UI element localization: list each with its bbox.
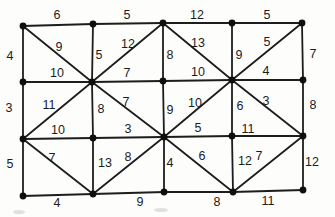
edge-weight-r4c3-r4c4: 8 <box>214 195 221 209</box>
edge-weight-r2c4-r3c3: 10 <box>188 96 202 110</box>
graph-node-r2c3 <box>160 78 167 85</box>
edge-r2c2-r2c3 <box>92 81 163 82</box>
edge-weight-r3c1-r4c1: 5 <box>7 157 14 171</box>
edge-weight-r2c2-r3c2: 8 <box>98 102 105 116</box>
edge-r1c2-r2c2 <box>92 24 93 82</box>
edge-weight-r2c3-r2c4: 10 <box>191 65 205 79</box>
edge-weight-r4c2-r3c3: 8 <box>125 150 132 164</box>
edge-r3c1-r4c2 <box>23 139 93 194</box>
edge-weight-r2c2-r3c3: 7 <box>123 95 130 109</box>
edge-r1c5-r2c5 <box>302 23 303 80</box>
edge-r2c2-r3c2 <box>92 82 93 138</box>
edge-weight-r2c1-r2c2: 10 <box>50 66 64 80</box>
edge-weight-r2c2-r2c3: 7 <box>124 66 131 80</box>
edge-weight-r2c2-r3c1: 11 <box>43 98 56 112</box>
edge-weight-r3c1-r3c2: 10 <box>51 123 65 137</box>
graph-node-r1c3 <box>160 20 167 27</box>
graph-node-r2c1 <box>20 79 27 86</box>
graph-node-r4c5 <box>300 187 307 194</box>
edge-weight-r1c3-r2c4: 13 <box>191 36 205 50</box>
edge-r3c4-r4c4 <box>232 136 233 192</box>
graph-node-r4c4 <box>230 189 237 196</box>
graph-node-r2c4 <box>229 77 236 84</box>
edge-weight-r1c1-r1c2: 6 <box>54 8 61 22</box>
edge-r2c3-r3c3 <box>163 81 164 137</box>
edge-r1c1-r1c2 <box>23 24 93 26</box>
edge-r1c2-r1c3 <box>93 23 163 24</box>
graph-node-r4c2 <box>90 191 97 198</box>
edge-weight-r2c4-r3c4: 6 <box>237 99 244 113</box>
graph-node-r3c4 <box>229 133 236 140</box>
edge-weight-r1c3-r2c2: 12 <box>121 37 135 51</box>
edge-weight-r1c5-r2c4: 5 <box>264 35 271 49</box>
edge-r4c4-r4c5 <box>233 190 303 192</box>
edge-weight-r3c4-r4c4: 12 <box>238 154 252 168</box>
edge-weight-r2c4-r2c5: 4 <box>263 64 270 78</box>
edge-weight-r3c2-r4c2: 13 <box>98 156 112 170</box>
graph-node-r1c5 <box>299 20 306 27</box>
edge-weight-r3c3-r4c3: 4 <box>167 156 174 170</box>
edge-r3c3-r4c4 <box>164 137 233 192</box>
graph-node-r3c5 <box>300 133 307 140</box>
edge-weight-r3c5-r4c5: 12 <box>305 155 319 169</box>
edge-r3c2-r3c3 <box>93 137 164 138</box>
edge-weight-r1c4-r2c4: 9 <box>236 48 243 62</box>
edge-weight-r2c5-r3c5: 8 <box>310 98 317 112</box>
graph-node-r1c1 <box>20 23 27 30</box>
graph-node-r3c3 <box>161 134 168 141</box>
edge-weight-r3c2-r3c3: 3 <box>125 122 132 136</box>
edge-weight-r1c3-r2c3: 8 <box>167 48 174 62</box>
edge-weight-r1c1-r2c1: 4 <box>7 49 14 63</box>
edge-r4c2-r4c3 <box>93 192 164 194</box>
scan-artifact <box>154 208 168 212</box>
edge-r2c3-r2c4 <box>163 80 232 81</box>
edge-weight-r4c2-r4c3: 9 <box>137 195 144 209</box>
edge-weight-r3c4-r3c5: 11 <box>242 122 255 136</box>
edge-weight-r4c4-r3c5: 7 <box>256 149 263 163</box>
edge-weight-r1c4-r1c5: 5 <box>264 8 271 22</box>
graph-node-r3c2 <box>90 135 97 142</box>
edge-weight-r2c1-r3c1: 3 <box>6 101 13 115</box>
edge-weight-r1c3-r1c4: 12 <box>190 8 204 22</box>
edge-weight-r1c2-r2c2: 5 <box>96 48 103 62</box>
edge-weight-r2c3-r3c3: 9 <box>167 103 174 117</box>
edge-weight-r3c3-r4c4: 6 <box>199 149 206 163</box>
edge-weight-r2c4-r3c5: 3 <box>263 94 270 108</box>
graph-node-r1c4 <box>229 20 236 27</box>
graph-node-r4c1 <box>20 193 27 200</box>
graph-node-r2c5 <box>300 77 307 84</box>
weighted-graph-figure: 6512510710410351149811435581389496127812… <box>0 0 335 217</box>
edge-weight-r3c1-r4c2: 7 <box>49 151 56 165</box>
edge-r3c1-r3c2 <box>23 138 93 139</box>
edge-weight-r1c5-r2c5: 7 <box>310 47 317 61</box>
edge-weight-r1c1-r2c2: 9 <box>56 40 63 54</box>
graph-node-r3c1 <box>20 136 27 143</box>
edge-weight-r1c2-r1c3: 5 <box>124 8 131 22</box>
scan-artifact <box>13 210 25 214</box>
edge-weight-r3c3-r3c4: 5 <box>195 121 202 135</box>
graph-node-r1c2 <box>90 21 97 28</box>
graph-svg: 6512510710410351149811435581389496127812… <box>0 0 335 217</box>
graph-node-r2c2 <box>89 79 96 86</box>
edge-weight-r4c4-r4c5: 11 <box>262 194 275 208</box>
edge-r3c3-r3c4 <box>164 136 232 137</box>
graph-node-r4c3 <box>161 189 168 196</box>
edge-weight-r4c1-r4c2: 4 <box>54 196 61 210</box>
